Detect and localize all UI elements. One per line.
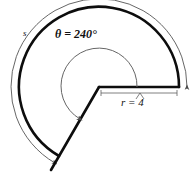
arc-length-label: s — [23, 28, 27, 38]
radius-label: r = 4 — [121, 96, 144, 108]
sector-arc — [19, 7, 179, 156]
terminal-side-radius — [51, 87, 99, 170]
theta-label: θ = 240° — [55, 27, 97, 42]
angle-arc-theta — [61, 48, 137, 119]
sector-diagram — [0, 0, 196, 185]
